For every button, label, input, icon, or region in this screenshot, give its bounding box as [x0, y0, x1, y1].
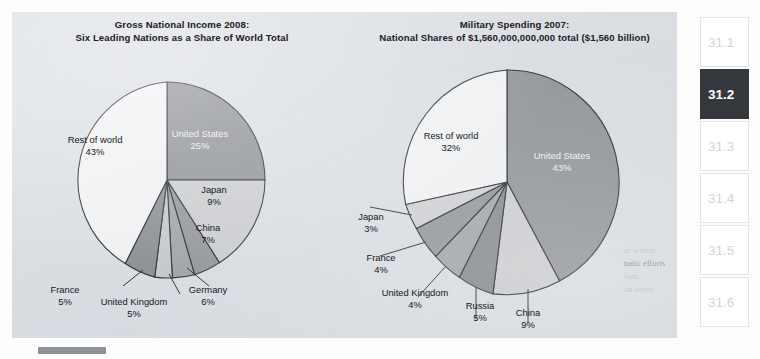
pie-label-rest-of-world-name: Rest of world — [424, 130, 479, 141]
sidebar-item-31-4-label: 31.4 — [708, 191, 734, 206]
bleed-line-4: on items — [624, 283, 677, 296]
pie-label-japan: Japan 3% — [348, 211, 394, 234]
pie-label-france-name: France — [50, 284, 79, 295]
pie-label-germany: Germany 6% — [177, 284, 239, 307]
pie-label-united-kingdom-name: United Kingdom — [382, 287, 449, 298]
pie-label-france-name: France — [366, 252, 395, 263]
bleed-line-2: natic efforts — [624, 257, 677, 270]
pie-label-japan-pct: 3% — [348, 223, 394, 235]
section-navigation-sidebar[interactable]: 31.1 31.2 31.3 31.4 31.5 31.6 — [700, 17, 749, 329]
pie-label-china-name: China — [516, 307, 541, 318]
chart-title-right-line2: National Shares of $1,560,000,000,000 to… — [352, 31, 677, 44]
pie-label-united-kingdom-pct: 4% — [367, 299, 463, 311]
sidebar-item-31-1-label: 31.1 — [708, 35, 734, 50]
chart-title-left-line2: Six Leading Nations as a Share of World … — [12, 31, 352, 44]
pie-label-china-pct: 7% — [184, 234, 232, 246]
pie-label-japan-pct: 9% — [190, 196, 238, 208]
pie-label-united-states-name: United States — [534, 150, 590, 161]
pie-label-rest-of-world: Rest of world 32% — [406, 130, 496, 153]
pie-label-japan-name: Japan — [358, 211, 384, 222]
leader-line-france — [123, 270, 143, 286]
pie-label-united-states: United States 43% — [520, 150, 604, 173]
pie-label-united-kingdom: United Kingdom 5% — [86, 296, 182, 319]
pie-label-russia-name: Russia — [466, 300, 495, 311]
sidebar-item-31-5[interactable]: 31.5 — [700, 225, 749, 275]
chart-panel-gross-national-income: Gross National Income 2008: Six Leading … — [12, 12, 352, 338]
pie-label-japan-name: Japan — [201, 184, 227, 195]
pie-label-france: France 5% — [38, 284, 92, 307]
pie-label-japan: Japan 9% — [190, 184, 238, 207]
pie-label-russia: Russia 5% — [455, 300, 505, 323]
sidebar-item-31-3-label: 31.3 — [708, 139, 734, 154]
pie-label-rest-of-world-pct: 32% — [406, 142, 496, 154]
sidebar-item-31-6[interactable]: 31.6 — [700, 277, 749, 327]
pie-label-united-states: United States 25% — [159, 128, 241, 151]
pie-label-germany-name: Germany — [189, 284, 228, 295]
pie-label-united-states-name: United States — [172, 128, 228, 139]
sidebar-item-31-5-label: 31.5 — [708, 243, 734, 258]
pie-chart-right-svg — [382, 57, 632, 307]
sidebar-item-31-4[interactable]: 31.4 — [700, 173, 749, 223]
pie-chart-left — [57, 70, 277, 290]
pie-label-germany-pct: 6% — [177, 296, 239, 308]
pie-label-france-pct: 4% — [357, 264, 405, 276]
pie-label-france: France 4% — [357, 252, 405, 275]
chart-title-right-line1: Military Spending 2007: — [352, 18, 677, 31]
sidebar-item-31-3[interactable]: 31.3 — [700, 121, 749, 171]
sidebar-item-31-2[interactable]: 31.2 — [700, 69, 749, 119]
chart-title-left-line1: Gross National Income 2008: — [12, 18, 352, 31]
scanned-page: Gross National Income 2008: Six Leading … — [12, 12, 677, 338]
pie-label-united-kingdom: United Kingdom 4% — [367, 287, 463, 310]
pie-chart-left-svg — [57, 70, 277, 290]
pie-label-united-kingdom-pct: 5% — [86, 308, 182, 320]
pie-label-china-name: China — [196, 222, 221, 233]
sidebar-item-31-6-label: 31.6 — [708, 295, 734, 310]
pie-label-china-pct: 9% — [504, 319, 552, 331]
pie-label-russia-pct: 5% — [455, 312, 505, 324]
pie-label-rest-of-world-pct: 43% — [50, 146, 140, 158]
pie-label-united-kingdom-name: United Kingdom — [101, 296, 168, 307]
pie-label-france-pct: 5% — [38, 296, 92, 308]
pie-label-rest-of-world: Rest of world 43% — [50, 134, 140, 157]
page-footer-bar — [38, 347, 106, 354]
sidebar-item-31-1[interactable]: 31.1 — [700, 17, 749, 67]
pie-label-united-states-pct: 25% — [159, 140, 241, 152]
pie-chart-right — [382, 57, 632, 307]
pie-label-china: China 7% — [184, 222, 232, 245]
screenshot-root: Gross National Income 2008: Six Leading … — [0, 0, 760, 359]
pie-label-china: China 9% — [504, 307, 552, 330]
bleed-line-3: lean — [624, 270, 677, 283]
chart-title-left: Gross National Income 2008: Six Leading … — [12, 18, 352, 44]
bleed-line-1: or within — [624, 244, 677, 257]
bleed-through-text: or within natic efforts lean on items — [624, 244, 677, 296]
sidebar-item-31-2-label: 31.2 — [708, 87, 734, 102]
chart-title-right: Military Spending 2007: National Shares … — [352, 18, 677, 44]
pie-label-united-states-pct: 43% — [520, 162, 604, 174]
pie-label-rest-of-world-name: Rest of world — [68, 134, 123, 145]
